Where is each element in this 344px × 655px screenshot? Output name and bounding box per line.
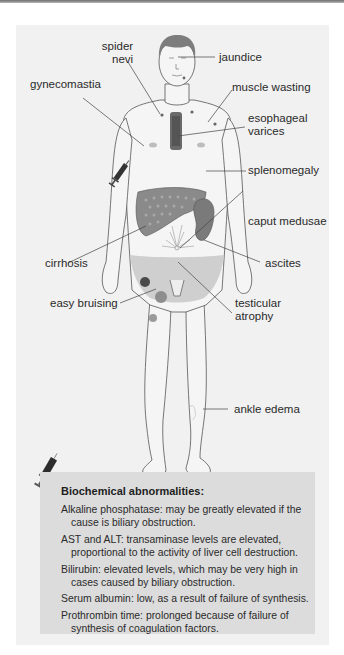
label-ascites: ascites	[265, 257, 301, 270]
left-leg	[143, 300, 171, 476]
biochem-item-line1: Alkaline phosphatase: may be greatly ele…	[61, 503, 311, 516]
label-spider-nevi-line1: spider	[100, 40, 133, 53]
biochem-item-line1: Prothrombin time: prolonged because of f…	[61, 609, 311, 622]
biochem-item-line1: Bilirubin: elevated levels, which may be…	[61, 563, 311, 576]
label-easy-bruising: easy bruising	[50, 297, 118, 310]
label-jaundice: jaundice	[219, 51, 262, 64]
biochem-item: Bilirubin: elevated levels, which may be…	[61, 563, 311, 589]
label-spider-nevi: spider nevi	[100, 40, 133, 66]
right-leg	[186, 300, 210, 475]
label-esophageal-varices: esophageal varices	[248, 112, 307, 138]
label-testicular-atrophy: testicular atrophy	[235, 297, 281, 323]
label-esophageal-line2: varices	[248, 125, 307, 138]
label-gynecomastia: gynecomastia	[30, 78, 101, 91]
label-splenomegaly: splenomegaly	[248, 164, 319, 177]
biochem-item: Alkaline phosphatase: may be greatly ele…	[61, 503, 311, 529]
bruise-1	[140, 277, 150, 287]
label-testicular-line1: testicular	[235, 297, 281, 310]
label-cirrhosis: cirrhosis	[45, 257, 88, 270]
label-muscle-wasting: muscle wasting	[232, 81, 311, 94]
label-spider-nevi-line2: nevi	[100, 53, 133, 66]
biochem-item-line2: proportional to the activity of liver ce…	[61, 546, 311, 559]
biochem-item: Serum albumin: low, as a result of failu…	[61, 592, 311, 605]
bruise-2	[155, 291, 167, 303]
biochem-item-line1: AST and ALT: transaminase levels are ele…	[61, 533, 311, 546]
biochem-item-line2: cases caused by biliary obstruction.	[61, 576, 311, 589]
biochem-item: Prothrombin time: prolonged because of f…	[61, 609, 311, 635]
label-esophageal-line1: esophageal	[248, 112, 307, 125]
label-caput-medusae: caput medusae	[248, 215, 327, 228]
biochem-item-line1: Serum albumin: low, as a result of failu…	[61, 592, 311, 605]
biochem-box: Biochemical abnormalities: Alkaline phos…	[40, 472, 315, 634]
biochem-title: Biochemical abnormalities:	[61, 485, 204, 497]
bruise-3	[149, 314, 157, 322]
neck	[165, 84, 189, 105]
label-testicular-line2: atrophy	[235, 310, 281, 323]
label-ankle-edema: ankle edema	[234, 403, 300, 416]
biochem-item-line2: cause is biliary obstruction.	[61, 516, 311, 529]
biochem-item-line2: synthesis of coagulation factors.	[61, 622, 311, 635]
biochem-item: AST and ALT: transaminase levels are ele…	[61, 533, 311, 559]
